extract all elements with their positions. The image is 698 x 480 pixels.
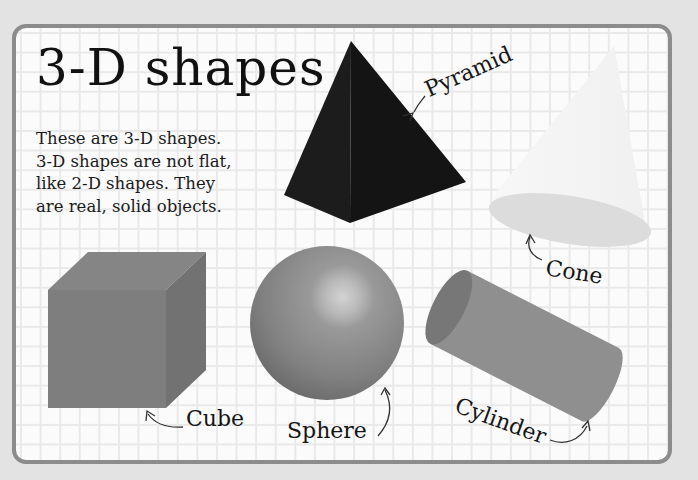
sphere-label: Sphere <box>287 418 367 443</box>
pyramid-shape <box>284 41 466 223</box>
cylinder-arrowhead-icon <box>582 421 590 431</box>
cone-pointer-arrow <box>529 237 542 260</box>
pyramid-pointer-arrow <box>414 96 425 112</box>
cylinder-pointer-arrow <box>550 426 587 442</box>
cube-pointer-arrow <box>148 414 183 427</box>
cube-label: Cube <box>186 406 244 431</box>
cone-shape <box>485 46 654 257</box>
sphere-shape <box>250 246 404 400</box>
shapes-illustration <box>0 0 698 480</box>
cube-shape <box>48 252 206 408</box>
sphere-pointer-arrow <box>378 390 390 436</box>
